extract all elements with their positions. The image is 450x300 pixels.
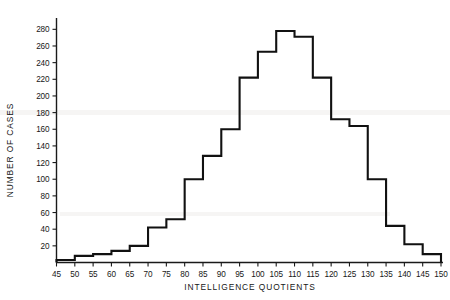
y-tick-label: 80 — [41, 192, 50, 201]
y-tick-label: 160 — [36, 125, 50, 134]
scan-artifacts — [0, 110, 450, 216]
y-tick-label: 120 — [36, 159, 50, 168]
x-tick-label: 45 — [52, 270, 61, 279]
x-tick-label: 150 — [434, 270, 448, 279]
x-tick-label: 120 — [324, 270, 338, 279]
y-tick-label: 200 — [36, 92, 50, 101]
y-tick-label: 240 — [36, 59, 50, 68]
y-tick-label: 40 — [41, 225, 50, 234]
y-tick-label: 280 — [36, 25, 50, 34]
histogram-outline — [57, 31, 442, 263]
y-tick-label: 100 — [36, 175, 50, 184]
y-axis-ticks: 20406080100120140160180200220240260280 — [36, 25, 56, 251]
x-tick-label: 70 — [144, 270, 153, 279]
x-tick-label: 105 — [270, 270, 284, 279]
y-tick-label: 20 — [41, 242, 50, 251]
chart-canvas: 20406080100120140160180200220240260280 4… — [0, 0, 450, 300]
x-tick-label: 110 — [288, 270, 301, 279]
y-tick-label: 260 — [36, 42, 50, 51]
x-tick-label: 145 — [416, 270, 430, 279]
y-tick-label: 60 — [41, 209, 50, 218]
x-tick-label: 85 — [199, 270, 208, 279]
y-tick-label: 220 — [36, 75, 50, 84]
x-tick-label: 125 — [343, 270, 357, 279]
x-tick-label: 135 — [379, 270, 393, 279]
x-tick-label: 55 — [89, 270, 98, 279]
x-tick-label: 75 — [162, 270, 171, 279]
x-tick-label: 50 — [70, 270, 79, 279]
x-tick-label: 80 — [180, 270, 189, 279]
x-tick-label: 90 — [217, 270, 226, 279]
x-tick-label: 115 — [306, 270, 319, 279]
x-axis-title: INTELLIGENCE QUOTIENTS — [184, 282, 315, 292]
y-tick-label: 180 — [36, 109, 50, 118]
histogram-chart: 20406080100120140160180200220240260280 4… — [0, 0, 450, 300]
y-axis-title: NUMBER OF CASES — [5, 103, 15, 197]
y-tick-label: 140 — [36, 142, 50, 151]
x-tick-label: 140 — [398, 270, 412, 279]
x-tick-label: 65 — [125, 270, 134, 279]
x-tick-label: 130 — [361, 270, 375, 279]
x-tick-label: 60 — [107, 270, 116, 279]
x-tick-label: 95 — [235, 270, 244, 279]
x-tick-label: 100 — [251, 270, 265, 279]
x-axis-ticks: 4550556065707580859095100105110115120125… — [52, 263, 448, 279]
